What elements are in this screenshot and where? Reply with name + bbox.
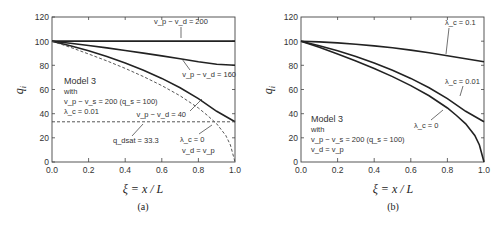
label-vd160: v_p − v_d = 160 (182, 70, 236, 79)
label-qdsat: q_dsat = 33.3 (113, 136, 159, 145)
label-vd40: v_p − v_d = 40 (136, 110, 186, 119)
y-tick-label: 80 (40, 61, 50, 71)
y-tick-label: 120 (35, 12, 49, 22)
block-title: Model 3 (311, 114, 343, 124)
arrow-lc0-a (199, 125, 212, 134)
y-tick-label: 20 (289, 133, 299, 143)
panel-caption-a: (a) (137, 201, 148, 213)
block-line: v_p − v_s = 200 (q_s = 100) (311, 135, 405, 144)
panel-caption-b: (b) (387, 201, 399, 213)
block-line: v_d = v_p (311, 145, 344, 154)
x-tick-label: 1.0 (478, 165, 490, 175)
block-line: λ_c = 0.01 (64, 107, 99, 116)
label-vdvp-a: v_d = v_p (182, 146, 215, 155)
label-lc0-a: λ_c = 0 (180, 135, 204, 144)
label-vd200: v_p − v_d = 200 (154, 17, 208, 26)
x-tick-label: 0.4 (119, 165, 131, 175)
y-tick-label: 100 (284, 37, 298, 47)
y-tick-labels-b: 0 20 40 60 80 100 120 (284, 12, 298, 167)
y-axis-label-b: qi (261, 86, 277, 94)
x-tick-label: 0.8 (441, 165, 453, 175)
block-line: v_p − v_s = 200 (q_s = 100) (64, 97, 158, 106)
x-tick-labels-b: 0.0 0.2 0.4 0.6 0.8 1.0 (295, 165, 490, 175)
x-tick-label: 0.0 (46, 165, 58, 175)
y-tick-label: 60 (289, 85, 299, 95)
figure: 0 20 40 60 80 100 120 0.0 0.2 0.4 0.6 0.… (0, 0, 503, 225)
x-tick-labels-a: 0.0 0.2 0.4 0.6 0.8 1.0 (46, 165, 241, 175)
y-tick-label: 40 (289, 109, 299, 119)
x-tick-label: 0.0 (295, 165, 307, 175)
y-tick-label: 80 (289, 61, 299, 71)
panel-b: 0 20 40 60 80 100 120 0.0 0.2 0.4 0.6 0.… (261, 12, 490, 213)
label-lc0-b: λ_c = 0 (414, 121, 438, 130)
label-lc001: λ_c = 0.01 (445, 77, 480, 86)
block-with: with (63, 87, 77, 96)
x-tick-label: 0.6 (405, 165, 417, 175)
y-tick-label: 120 (284, 12, 298, 22)
block-with: with (310, 125, 324, 134)
x-tick-label: 0.8 (192, 165, 204, 175)
x-axis-label-a: ξ = x / L (123, 182, 164, 196)
x-tick-label: 1.0 (229, 165, 241, 175)
x-tick-label: 0.6 (156, 165, 168, 175)
y-tick-label: 60 (40, 85, 50, 95)
y-axis-label-a: qi (12, 86, 28, 94)
y-tick-label: 20 (40, 133, 50, 143)
block-title: Model 3 (64, 76, 96, 86)
model-block-b: Model 3 with v_p − v_s = 200 (q_s = 100)… (310, 114, 405, 154)
y-tick-labels-a: 0 20 40 60 80 100 120 (35, 12, 49, 167)
x-tick-label: 0.4 (368, 165, 380, 175)
x-tick-label: 0.2 (332, 165, 344, 175)
arrow-vd40 (190, 99, 202, 111)
curve-vd160 (52, 41, 235, 65)
y-tick-label: 100 (35, 37, 49, 47)
arrow-lc001 (460, 86, 463, 96)
arrow-lc01 (446, 28, 449, 54)
y-tick-label: 40 (40, 109, 50, 119)
arrow-lc0-b (431, 110, 443, 120)
x-tick-label: 0.2 (83, 165, 95, 175)
panel-a: 0 20 40 60 80 100 120 0.0 0.2 0.4 0.6 0.… (12, 12, 241, 213)
arrow-qdsat (132, 124, 143, 136)
label-lc01: λ_c = 0.1 (445, 18, 476, 27)
x-axis-label-b: ξ = x / L (373, 182, 414, 196)
